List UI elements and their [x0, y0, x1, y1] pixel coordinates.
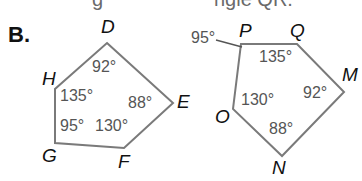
- vertex-label-p: P: [239, 20, 252, 42]
- vertex-label-g: G: [42, 145, 57, 167]
- vertex-label-e: E: [177, 91, 190, 113]
- vertex-label-n: N: [272, 157, 286, 179]
- angle-d: 92°: [92, 58, 116, 76]
- vertex-label-f: F: [118, 151, 130, 173]
- angle-p: 95°: [191, 29, 215, 47]
- angle-h: 135°: [60, 87, 93, 105]
- angle-q: 135°: [259, 48, 292, 66]
- angle-e: 88°: [128, 94, 152, 112]
- angle-f: 130°: [95, 117, 128, 135]
- vertex-label-o: O: [215, 106, 230, 128]
- section-label: B.: [8, 22, 30, 48]
- vertex-label-d: D: [101, 16, 115, 38]
- vertex-label-q: Q: [290, 20, 305, 42]
- angle-o: 130°: [241, 91, 274, 109]
- angle-n: 88°: [269, 120, 293, 138]
- angle-g: 95°: [60, 117, 84, 135]
- vertex-label-h: H: [42, 68, 56, 90]
- vertex-label-m: M: [342, 64, 358, 86]
- angle-m: 92°: [303, 84, 327, 102]
